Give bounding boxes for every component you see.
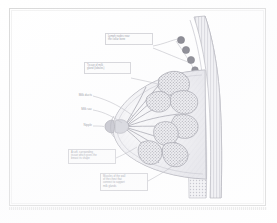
nipple-shape [105, 120, 115, 133]
callout-fatty-tissue: A soft, surrounding tissue which gives t… [68, 149, 116, 164]
callout-chest-wall-muscle: Muscles of the wall of the chest that co… [100, 173, 148, 191]
label-nipple: Nipple [62, 124, 92, 127]
callout-line: the collar bone [108, 38, 150, 41]
lymph-node [187, 56, 194, 63]
callout-line: milk glands [103, 185, 145, 188]
callout-lymph-nodes: Lymph nodes near the collar bone [105, 33, 153, 45]
callout-line: breast its shape [71, 157, 113, 160]
lymph-nodes [176, 36, 198, 74]
leader-nipple [93, 126, 104, 127]
lobule-cluster [146, 91, 171, 112]
label-milk-sinus: Milk sac [62, 108, 92, 111]
lymph-node [177, 36, 184, 43]
label-milk-ducts: Milk ducts [62, 94, 92, 97]
lymph-node [182, 46, 189, 53]
lobule-cluster [154, 122, 179, 146]
callout-line: gland (lobules) [87, 67, 128, 70]
leader-lymph-a [153, 39, 178, 46]
screenshot-root: Lymph nodes near the collar bone Tissue … [0, 0, 277, 223]
scan-bottom-edge [9, 207, 267, 210]
callout-lobules: Tissue of milk gland (lobules) [84, 62, 131, 74]
lobule-cluster [138, 141, 162, 165]
